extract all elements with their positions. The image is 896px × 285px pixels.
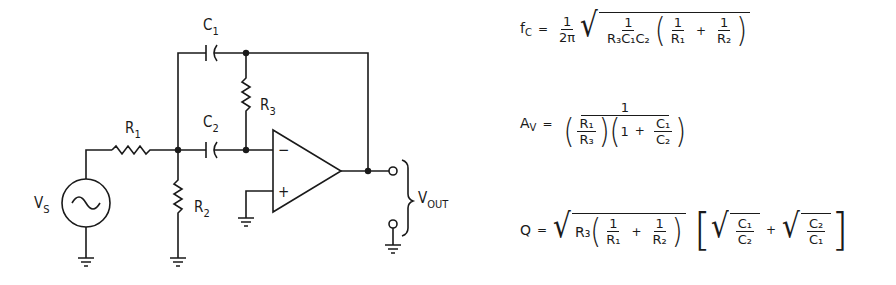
label-r2: R2 xyxy=(194,198,210,220)
resistor-r3-icon xyxy=(242,53,250,150)
equation-fc: fC = 12π √ 1R₃C₁C₂ ( 1R₁ + 1R₂ ) xyxy=(520,12,750,46)
ground-icon xyxy=(78,227,94,266)
equation-av: AV = 1 ( R₁R₃ )( 1 + C₁C₂ ) xyxy=(520,100,691,147)
label-r1: R1 xyxy=(125,119,141,141)
output-brace xyxy=(402,160,413,236)
label-c2: C2 xyxy=(203,113,219,135)
equation-q: Q = √ R₃ ( 1R₁ + 1R₂ ) [ √C₁C₂ + √C₂C₁ ] xyxy=(520,208,848,252)
square-root: √ 1R₃C₁C₂ ( 1R₁ + 1R₂ ) xyxy=(580,12,750,46)
opamp-noninverting-label: + xyxy=(278,183,289,201)
label-vs: VS xyxy=(34,194,50,216)
resistor-r2-icon xyxy=(170,150,186,266)
label-c1: C1 xyxy=(203,16,219,38)
resistor-r1-icon xyxy=(112,146,178,154)
sine-wave-icon xyxy=(72,197,100,209)
circuit-schematic: VS R1 R2 R3 C1 C2 − + VOUT xyxy=(0,0,480,285)
label-r3: R3 xyxy=(260,96,276,118)
label-vout: VOUT xyxy=(418,189,449,211)
opamp-inverting-label: − xyxy=(278,141,289,159)
